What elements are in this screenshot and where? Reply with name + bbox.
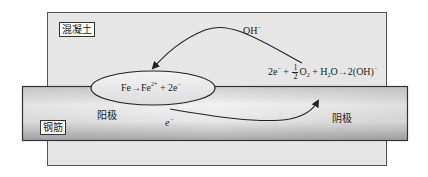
- hydroxide-charge: −: [257, 24, 260, 30]
- anode-reaction: Fe→Fe2+ + 2e−: [121, 81, 181, 93]
- hydroxide-label: OH−: [243, 24, 261, 36]
- electron-charge: −: [169, 116, 173, 122]
- concrete-label: 混凝土: [59, 22, 95, 37]
- anode-reaction-left: Fe→Fe: [121, 82, 151, 93]
- hydroxide-symbol: OH: [243, 25, 257, 36]
- anode-reaction-right: + 2e: [157, 82, 177, 93]
- cathode-reaction-oxygen: O: [299, 66, 306, 77]
- fraction-denominator: 2: [292, 73, 298, 81]
- cathode-reaction-fraction: 12: [292, 64, 298, 81]
- cathode-reaction-water-h: + H: [310, 66, 328, 77]
- product-charge: −: [374, 65, 377, 71]
- electron-label: e−: [165, 116, 174, 128]
- cathode-reaction-plus1: +: [281, 66, 292, 77]
- anode-label: 阳极: [97, 107, 117, 122]
- steel-label: 钢筋: [40, 120, 66, 135]
- cathode-label: 阴极: [332, 110, 352, 125]
- cathode-reaction-product: O→2(OH): [331, 66, 374, 77]
- anode-reaction-charge2: −: [177, 81, 180, 87]
- cathode-reaction: 2e− + 12O2 + H2O→2(OH)−: [268, 64, 377, 81]
